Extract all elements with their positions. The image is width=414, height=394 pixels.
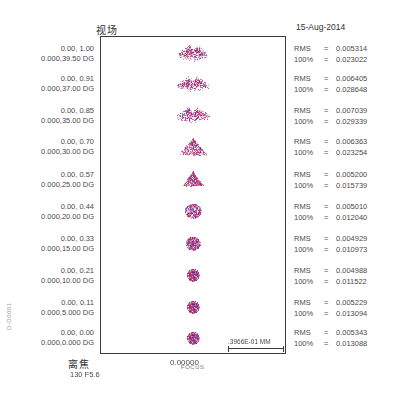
field-label-relative: 0.00, 0.21 bbox=[41, 266, 94, 276]
field-label: 0.00, 0.330.000,15.00 DG bbox=[41, 234, 94, 253]
field-label: 0.00, 1.000.000,39.50 DG bbox=[41, 44, 94, 63]
page-title: 视场 bbox=[96, 22, 118, 37]
spot-cluster bbox=[176, 44, 210, 64]
field-label-degrees: 0.000,25.00 DG bbox=[41, 180, 94, 190]
plot-frame bbox=[100, 36, 286, 354]
equals-sign: = bbox=[324, 44, 336, 55]
rms-label-line: RMS=0.006363 bbox=[294, 137, 367, 148]
stat-block: RMS=0.004929100%=0.010973 bbox=[294, 234, 367, 255]
geo-label-line: 100%=0.028648 bbox=[294, 85, 367, 96]
rms-value: 0.006405 bbox=[336, 74, 367, 85]
rms-value: 0.007039 bbox=[336, 106, 367, 117]
field-label-relative: 0.00, 0.85 bbox=[41, 106, 94, 116]
stat-block: RMS=0.005010100%=0.012040 bbox=[294, 202, 367, 223]
geo-label: 100% bbox=[294, 339, 324, 350]
equals-sign: = bbox=[324, 106, 336, 117]
field-label-relative: 0.00, 0.33 bbox=[41, 234, 94, 244]
rms-label: RMS bbox=[294, 44, 324, 55]
equals-sign: = bbox=[324, 202, 336, 213]
geo-label: 100% bbox=[294, 117, 324, 128]
rms-value: 0.005010 bbox=[336, 202, 367, 213]
spot-cluster bbox=[185, 236, 201, 251]
rms-label: RMS bbox=[294, 137, 324, 148]
stat-block: RMS=0.006363100%=0.023254 bbox=[294, 137, 367, 158]
rms-label-line: RMS=0.006405 bbox=[294, 74, 367, 85]
scale-bar-label: .3966E-01 MM bbox=[228, 338, 271, 345]
field-label-relative: 0.00, 0.00 bbox=[41, 328, 94, 338]
equals-sign: = bbox=[324, 328, 336, 339]
rms-label: RMS bbox=[294, 328, 324, 339]
spot-cluster bbox=[186, 300, 200, 314]
spot-cluster bbox=[182, 170, 204, 188]
field-label-relative: 0.00, 0.57 bbox=[41, 170, 94, 180]
spot-cluster bbox=[175, 76, 211, 94]
field-label-degrees: 0.000,30.00 DG bbox=[41, 147, 94, 157]
rms-value: 0.004988 bbox=[336, 266, 367, 277]
stat-block: RMS=0.007039100%=0.029339 bbox=[294, 106, 367, 127]
scale-bar bbox=[228, 348, 284, 349]
field-label-degrees: 0.000,5.000 DG bbox=[41, 308, 94, 318]
equals-sign: = bbox=[324, 298, 336, 309]
rms-value: 0.005314 bbox=[336, 44, 367, 55]
rms-label-line: RMS=0.004988 bbox=[294, 266, 367, 277]
field-label-degrees: 0.000,0.000 DG bbox=[41, 338, 94, 348]
spot-cluster bbox=[186, 331, 200, 345]
field-label-relative: 0.00, 0.44 bbox=[41, 202, 94, 212]
rms-label: RMS bbox=[294, 170, 324, 181]
geo-value: 0.028648 bbox=[336, 85, 367, 96]
field-label-degrees: 0.000,10.00 DG bbox=[41, 276, 94, 286]
field-label-degrees: 0.000,35.00 DG bbox=[41, 116, 94, 126]
equals-sign: = bbox=[324, 245, 336, 256]
geo-value: 0.023254 bbox=[336, 148, 367, 159]
geo-value: 0.029339 bbox=[336, 117, 367, 128]
equals-sign: = bbox=[324, 117, 336, 128]
field-label: 0.00, 0.700.000,30.00 DG bbox=[41, 137, 94, 156]
rms-value: 0.005229 bbox=[336, 298, 367, 309]
spot-diagram-page: 视场 15-Aug-2014 0.00, 1.000.000,39.50 DG0… bbox=[0, 0, 414, 394]
geo-label-line: 100%=0.029339 bbox=[294, 117, 367, 128]
equals-sign: = bbox=[324, 74, 336, 85]
field-label-degrees: 0.000,20.00 DG bbox=[41, 212, 94, 222]
rms-label-line: RMS=0.004929 bbox=[294, 234, 367, 245]
stats-column: RMS=0.005314100%=0.023022RMS=0.006405100… bbox=[294, 36, 414, 354]
stat-block: RMS=0.005229100%=0.013094 bbox=[294, 298, 367, 319]
rms-label-line: RMS=0.005314 bbox=[294, 44, 367, 55]
field-label-column: 0.00, 1.000.000,39.50 DG0.00, 0.910.000,… bbox=[0, 36, 98, 354]
geo-value: 0.011522 bbox=[336, 277, 367, 288]
rms-label-line: RMS=0.007039 bbox=[294, 106, 367, 117]
rms-label-line: RMS=0.005343 bbox=[294, 328, 367, 339]
equals-sign: = bbox=[324, 181, 336, 192]
equals-sign: = bbox=[324, 339, 336, 350]
stat-block: RMS=0.005200100%=0.015739 bbox=[294, 170, 367, 191]
rms-label-line: RMS=0.005200 bbox=[294, 170, 367, 181]
date-label: 15-Aug-2014 bbox=[296, 22, 345, 32]
rms-label: RMS bbox=[294, 202, 324, 213]
geo-label-line: 100%=0.013094 bbox=[294, 309, 367, 320]
geo-label-line: 100%=0.011522 bbox=[294, 277, 367, 288]
x-axis-title: 离焦 bbox=[68, 356, 90, 371]
field-label-relative: 0.00, 0.70 bbox=[41, 137, 94, 147]
spot-cluster bbox=[178, 137, 208, 157]
spot-cluster bbox=[174, 107, 212, 125]
field-label: 0.00, 0.440.000,20.00 DG bbox=[41, 202, 94, 221]
stat-block: RMS=0.005314100%=0.023022 bbox=[294, 44, 367, 65]
equals-sign: = bbox=[324, 309, 336, 320]
rms-value: 0.005200 bbox=[336, 170, 367, 181]
geo-value: 0.015739 bbox=[336, 181, 367, 192]
equals-sign: = bbox=[324, 213, 336, 224]
geo-label: 100% bbox=[294, 55, 324, 66]
geo-label: 100% bbox=[294, 309, 324, 320]
rms-label: RMS bbox=[294, 74, 324, 85]
stat-block: RMS=0.005343100%=0.013088 bbox=[294, 328, 367, 349]
geo-value: 0.010973 bbox=[336, 245, 367, 256]
equals-sign: = bbox=[324, 55, 336, 66]
field-label-degrees: 0.000,15.00 DG bbox=[41, 244, 94, 254]
field-label-relative: 0.00, 0.91 bbox=[41, 74, 94, 84]
stat-block: RMS=0.004988100%=0.011522 bbox=[294, 266, 367, 287]
rms-label: RMS bbox=[294, 106, 324, 117]
rms-value: 0.004929 bbox=[336, 234, 367, 245]
rms-label: RMS bbox=[294, 234, 324, 245]
geo-label: 100% bbox=[294, 245, 324, 256]
geo-label-line: 100%=0.015739 bbox=[294, 181, 367, 192]
lens-spec-label: 130 F5.6 bbox=[70, 370, 100, 379]
